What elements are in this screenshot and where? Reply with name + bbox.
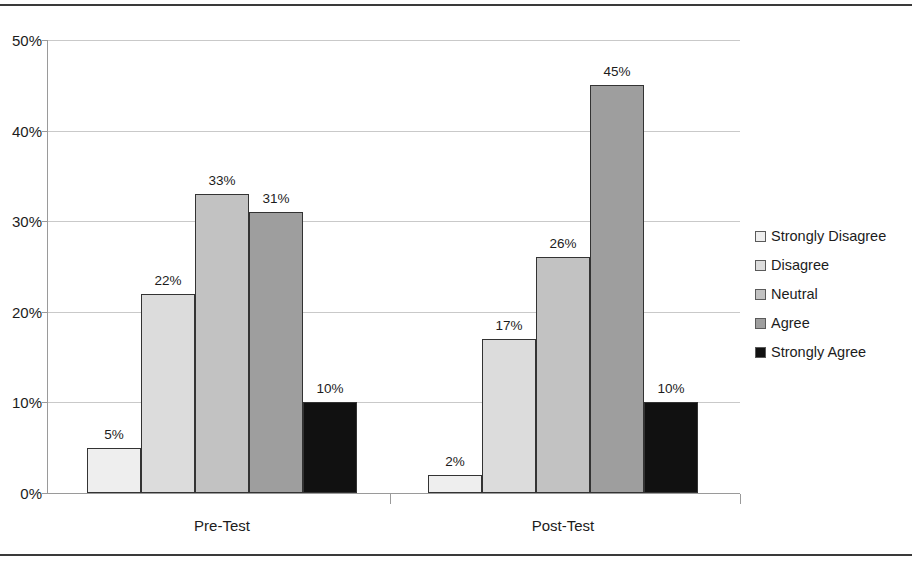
- y-axis-tick: [42, 312, 48, 313]
- legend-item: Disagree: [755, 251, 886, 280]
- y-axis-tick: [42, 402, 48, 403]
- legend-item: Agree: [755, 309, 886, 338]
- legend-item: Strongly Agree: [755, 338, 886, 367]
- figure-top-rule: [0, 4, 912, 6]
- bar-value-label: 17%: [482, 319, 536, 333]
- legend-swatch-icon: [755, 231, 766, 242]
- y-axis-tick: [42, 131, 48, 132]
- bar: [482, 339, 536, 493]
- plot-area: 5%22%33%31%10%2%17%26%45%10%: [48, 40, 740, 493]
- legend-swatch-icon: [755, 289, 766, 300]
- bar: [644, 402, 698, 493]
- bar-value-label: 5%: [87, 428, 141, 442]
- bar: [249, 212, 303, 493]
- bar-value-label: 33%: [195, 174, 249, 188]
- y-axis-tick-label: 30%: [12, 214, 42, 229]
- bar: [536, 257, 590, 493]
- y-axis-tick-label: 40%: [12, 123, 42, 138]
- legend-swatch-icon: [755, 347, 766, 358]
- bar-value-label: 2%: [428, 455, 482, 469]
- bar: [303, 402, 357, 493]
- legend-item-label: Disagree: [771, 258, 829, 273]
- y-axis-tick-label: 0%: [20, 486, 42, 501]
- y-axis-tick: [42, 493, 48, 494]
- legend-item-label: Neutral: [771, 287, 818, 302]
- legend-item-label: Agree: [771, 316, 810, 331]
- category-axis-tick: [390, 494, 391, 504]
- y-axis-tick-labels: 0%10%20%30%40%50%: [0, 40, 42, 493]
- figure-bottom-rule: [0, 554, 912, 556]
- bar: [428, 475, 482, 493]
- legend-item-label: Strongly Disagree: [771, 229, 886, 244]
- category-axis-label: Post-Test: [532, 518, 595, 533]
- bar-value-label: 10%: [303, 382, 357, 396]
- bar: [590, 85, 644, 493]
- legend-item-label: Strongly Agree: [771, 345, 866, 360]
- category-axis-label: Pre-Test: [194, 518, 250, 533]
- bar-chart: 0%10%20%30%40%50% 5%22%33%31%10%2%17%26%…: [0, 0, 912, 564]
- bar-value-label: 31%: [249, 192, 303, 206]
- y-axis-tick-label: 10%: [12, 395, 42, 410]
- y-axis-line: [47, 40, 48, 494]
- bar-value-label: 10%: [644, 382, 698, 396]
- bar-value-label: 45%: [590, 65, 644, 79]
- gridline: [48, 40, 740, 41]
- bar-value-label: 26%: [536, 237, 590, 251]
- y-axis-tick-label: 50%: [12, 33, 42, 48]
- y-axis-tick: [42, 40, 48, 41]
- chart-legend: Strongly DisagreeDisagreeNeutralAgreeStr…: [755, 222, 886, 367]
- y-axis-tick-label: 20%: [12, 304, 42, 319]
- category-axis-tick: [740, 494, 741, 504]
- bar: [87, 448, 141, 493]
- bar-value-label: 22%: [141, 274, 195, 288]
- legend-item: Strongly Disagree: [755, 222, 886, 251]
- bar: [195, 194, 249, 493]
- legend-swatch-icon: [755, 260, 766, 271]
- legend-swatch-icon: [755, 318, 766, 329]
- legend-item: Neutral: [755, 280, 886, 309]
- x-axis-baseline: [48, 493, 740, 494]
- bar: [141, 294, 195, 493]
- y-axis-tick: [42, 221, 48, 222]
